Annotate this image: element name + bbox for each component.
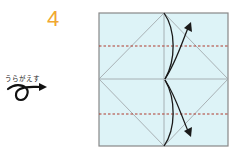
paper-square bbox=[99, 13, 228, 146]
origami-diagram bbox=[0, 0, 240, 155]
